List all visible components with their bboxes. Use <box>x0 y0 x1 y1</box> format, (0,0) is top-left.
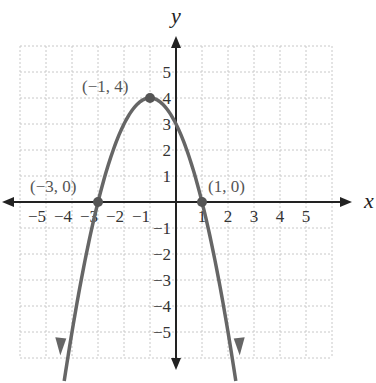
x-tick-label: 4 <box>276 207 285 226</box>
x-tick-label: −1 <box>132 207 150 226</box>
left-root-point <box>93 197 103 207</box>
vertex-label: (−1, 4) <box>82 77 128 96</box>
x-tick-label: −4 <box>54 207 73 226</box>
y-axis-label: y <box>169 3 181 28</box>
right-root-label: (1, 0) <box>208 177 245 196</box>
y-tick-label: −1 <box>153 219 171 238</box>
x-axis-right-arrow-icon <box>340 197 352 207</box>
y-tick-label: 5 <box>163 63 172 82</box>
vertex-point <box>145 93 155 103</box>
y-tick-label: −3 <box>153 271 171 290</box>
x-tick-label: 5 <box>302 207 311 226</box>
right-root-point <box>197 197 207 207</box>
graph: x y −5−4−3−2−11234554321−1−2−3−4−5 (−1, … <box>0 0 376 383</box>
left-root-label: (−3, 0) <box>30 177 76 196</box>
y-tick-label: −4 <box>153 297 172 316</box>
y-tick-label: 3 <box>163 115 172 134</box>
x-tick-label: −2 <box>106 207 124 226</box>
x-tick-label: 3 <box>250 207 259 226</box>
y-tick-label: 1 <box>163 167 172 186</box>
curve-left-arrow-icon <box>55 337 66 355</box>
y-axis-up-arrow-icon <box>171 36 181 48</box>
x-axis-label: x <box>363 188 374 213</box>
curve-right-arrow-icon <box>234 337 245 355</box>
y-tick-label: −2 <box>153 245 171 264</box>
y-tick-label: 2 <box>163 141 172 160</box>
y-tick-label: −5 <box>153 323 171 342</box>
x-tick-label: 2 <box>224 207 233 226</box>
x-axis-left-arrow-icon <box>2 197 14 207</box>
x-tick-label: −5 <box>28 207 46 226</box>
y-axis-down-arrow-icon <box>171 358 181 370</box>
